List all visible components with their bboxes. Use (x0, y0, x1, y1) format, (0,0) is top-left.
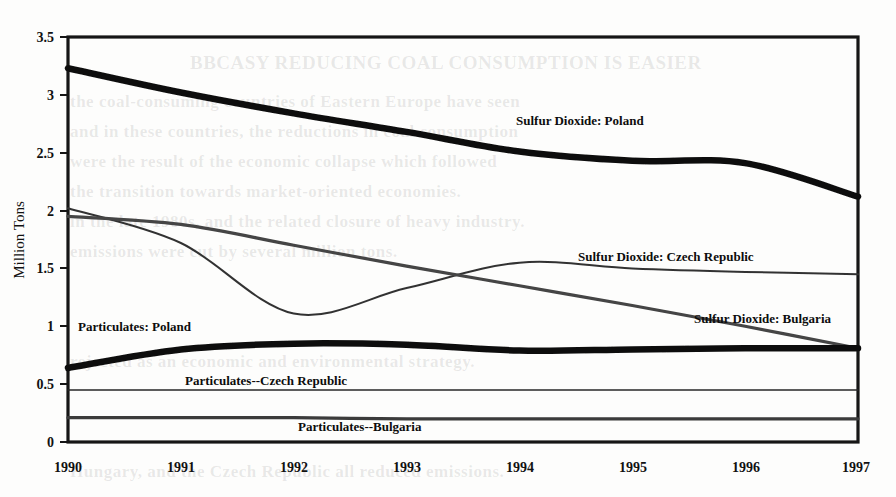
series-label-particulates-bulgaria: Particulates--Bulgaria (298, 419, 422, 434)
x-tick-label: 1995 (619, 460, 647, 475)
series-label-sulfur-dioxide-bulgaria: Sulfur Dioxide: Bulgaria (694, 311, 832, 326)
x-tick-label: 1990 (54, 460, 82, 475)
y-tick-label: 2 (47, 204, 54, 219)
series-line-particulates-poland (68, 343, 858, 368)
series-label-particulates-czech-republic: Particulates--Czech Republic (185, 373, 347, 388)
y-axis-title: Million Tons (11, 201, 27, 279)
series-layer (68, 68, 858, 419)
x-axis-labels: 1990 1991 1992 1993 1994 1995 1996 1997 (54, 460, 870, 475)
series-line-particulates-bulgaria (68, 418, 858, 419)
line-chart: 3.5 3 2.5 2 1.5 1 0.5 0 Million Tons 199… (0, 0, 896, 497)
x-tick-label: 1993 (393, 460, 421, 475)
y-tick-label: 3 (47, 88, 54, 103)
y-tick-label: 0.5 (37, 377, 55, 392)
chart-figure: BBCASY REDUCING COAL CONSUMPTION IS EASI… (0, 0, 896, 497)
x-tick-label: 1992 (280, 460, 308, 475)
y-tick-label: 1.5 (37, 261, 55, 276)
y-tick-label: 1 (47, 319, 54, 334)
y-axis-labels: 3.5 3 2.5 2 1.5 1 0.5 0 (37, 30, 55, 450)
series-line-sulfur-dioxide-poland (68, 68, 858, 196)
x-tick-label: 1994 (506, 460, 534, 475)
y-tick-label: 2.5 (37, 146, 55, 161)
x-tick-label: 1996 (732, 460, 760, 475)
y-tick-label: 3.5 (37, 30, 55, 45)
x-tick-label: 1997 (842, 460, 870, 475)
y-tick-label: 0 (47, 435, 54, 450)
x-tick-label: 1991 (167, 460, 195, 475)
series-label-sulfur-dioxide-poland: Sulfur Dioxide: Poland (516, 113, 644, 128)
series-label-sulfur-dioxide-czech-republic: Sulfur Dioxide: Czech Republic (578, 249, 754, 264)
series-label-particulates-poland: Particulates: Poland (78, 319, 192, 334)
